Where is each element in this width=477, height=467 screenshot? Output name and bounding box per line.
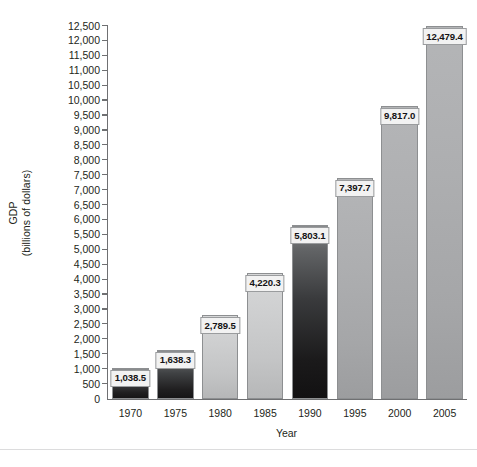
y-tick-7500: 7,500 [44,170,108,180]
bar-value-label-1985: 4,220.3 [245,275,284,292]
y-tick-mark [102,55,108,56]
gdp-bar-chart: GDP (billions of dollars) 12,50012,00011… [0,0,477,467]
y-tick-label: 9,000 [74,124,100,136]
y-tick-mark [102,40,108,41]
y-tick-6500: 6,500 [44,200,108,210]
y-tick-2000: 2,000 [44,334,108,344]
bar-series: 1,038.519701,638.319752,789.519804,220.3… [108,26,467,399]
y-tick-500: 500 [44,379,108,389]
bar-value-label-1990: 5,803.1 [290,227,329,244]
x-tick-label-1995: 1995 [343,408,366,419]
y-tick-label: 3,000 [74,303,100,315]
y-tick-1000: 1,000 [44,364,108,374]
y-tick-mark [102,189,108,190]
bar-2000[interactable] [381,106,418,399]
x-tick-label-1980: 1980 [209,408,232,419]
y-tick-11500: 11,500 [44,50,108,60]
y-tick-label: 2,000 [74,333,100,345]
y-axis-title-line-1: GDP [7,155,20,271]
x-tick-label-2005: 2005 [433,408,456,419]
y-tick-mark [102,70,108,71]
y-tick-10000: 10,000 [44,95,108,105]
y-tick-mark [102,174,108,175]
y-tick-10500: 10,500 [44,80,108,90]
y-axis-title-line-2: (billions of dollars) [20,155,33,271]
bar-value-label-1980: 2,789.5 [201,317,240,334]
bar-group-2005: 12,479.42005 [426,26,463,399]
bar-value-label-2005: 12,479.4 [422,28,467,45]
y-tick-mark [102,114,108,115]
y-tick-label: 0 [94,393,100,405]
bar-1995[interactable] [337,178,374,399]
y-tick-mark [102,219,108,220]
y-tick-1500: 1,500 [44,349,108,359]
y-tick-9500: 9,500 [44,110,108,120]
y-tick-2500: 2,500 [44,319,108,329]
y-tick-label: 7,000 [74,184,100,196]
bar-value-label-1975: 1,638.3 [156,352,195,369]
y-tick-label: 3,500 [74,288,100,300]
y-tick-label: 10,500 [68,79,100,91]
y-tick-mark [102,234,108,235]
y-tick-label: 7,500 [74,169,100,181]
y-tick-8500: 8,500 [44,140,108,150]
y-tick-3500: 3,500 [44,289,108,299]
y-tick-label: 1,000 [74,363,100,375]
y-tick-mark [102,293,108,294]
y-tick-label: 6,000 [74,213,100,225]
bar-group-1990: 5,803.11990 [292,26,329,399]
y-tick-label: 1,500 [74,348,100,360]
y-tick-label: 11,500 [69,49,100,61]
y-tick-6000: 6,000 [44,214,108,224]
y-tick-label: 500 [82,378,100,390]
y-tick-mark [102,368,108,369]
bar-group-1980: 2,789.51980 [202,26,239,399]
y-tick-12500: 12,500 [44,21,108,31]
bar-1990[interactable] [292,225,329,398]
y-tick-4000: 4,000 [44,274,108,284]
y-tick-mark [102,264,108,265]
bar-group-1985: 4,220.31985 [247,26,284,399]
y-tick-mark [102,279,108,280]
y-tick-label: 5,500 [74,228,100,240]
y-tick-label: 11,000 [69,64,100,76]
plot-area: 12,50012,00011,50011,00010,50010,0009,50… [107,26,467,400]
y-tick-7000: 7,000 [44,185,108,195]
bar-group-1970: 1,038.51970 [112,26,149,399]
bar-group-2000: 9,817.02000 [381,26,418,399]
y-tick-label: 12,500 [68,20,100,32]
y-tick-mark [102,129,108,130]
bar-value-label-2000: 9,817.0 [380,108,419,125]
y-tick-label: 6,500 [74,199,100,211]
y-axis-title: GDP (billions of dollars) [7,155,47,271]
y-tick-mark [102,308,108,309]
x-tick-label-1990: 1990 [298,408,321,419]
y-tick-label: 2,500 [74,318,100,330]
x-tick-label-1985: 1985 [253,408,276,419]
y-tick-mark [102,25,108,26]
y-tick-3000: 3,000 [44,304,108,314]
y-tick-mark [102,99,108,100]
y-tick-mark [102,353,108,354]
y-tick-8000: 8,000 [44,155,108,165]
bar-2005[interactable] [426,26,463,398]
bar-group-1975: 1,638.31975 [157,26,194,399]
y-tick-label: 4,500 [74,258,100,270]
y-tick-mark [102,144,108,145]
y-tick-mark [102,85,108,86]
y-tick-mark [102,323,108,324]
y-tick-12000: 12,000 [44,35,108,45]
y-tick-mark [102,383,108,384]
y-tick-5500: 5,500 [44,229,108,239]
y-tick-mark [102,204,108,205]
y-tick-label: 4,000 [74,273,100,285]
y-tick-9000: 9,000 [44,125,108,135]
y-tick-label: 8,500 [74,139,100,151]
bar-value-label-1995: 7,397.7 [335,180,374,197]
y-tick-5000: 5,000 [44,244,108,254]
bar-value-label-1970: 1,038.5 [111,370,150,387]
x-tick-label-1975: 1975 [164,408,187,419]
y-tick-4500: 4,500 [44,259,108,269]
x-tick-label-1970: 1970 [119,408,142,419]
y-tick-mark [102,159,108,160]
